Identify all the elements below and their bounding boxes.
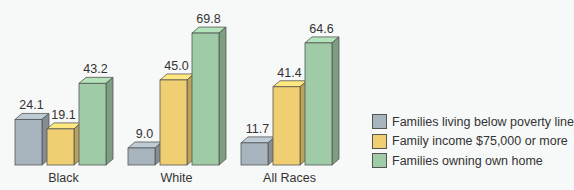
bar-side: [219, 27, 226, 165]
bar: [15, 119, 42, 165]
legend-swatch-yellow: [372, 134, 387, 149]
bar-side: [106, 77, 113, 165]
category-label: Black: [48, 171, 79, 185]
bar-value-label: 19.1: [51, 108, 75, 122]
bar: [128, 148, 155, 165]
legend-label: Families owning own home: [392, 154, 543, 168]
legend-swatch-green: [372, 153, 387, 168]
legend-swatch-gray: [372, 114, 387, 129]
bar: [192, 33, 219, 165]
bar-value-label: 11.7: [246, 122, 269, 136]
bar-value-label: 41.4: [277, 66, 301, 80]
bar: [160, 80, 187, 165]
bar-value-label: 64.6: [309, 22, 333, 36]
legend-item-poverty: Families living below poverty line: [372, 112, 574, 132]
bar: [47, 129, 74, 165]
bar: [305, 43, 332, 165]
bar: [241, 143, 268, 165]
bar-value-label: 43.2: [83, 62, 107, 76]
bar-chart: 24.119.143.2Black9.045.069.8White11.741.…: [0, 0, 340, 190]
chart-legend: Families living below poverty line Famil…: [372, 112, 574, 171]
bar-side: [332, 37, 339, 165]
legend-label: Families living below poverty line: [392, 115, 574, 129]
bar-value-label: 24.1: [19, 98, 43, 112]
category-label: White: [161, 171, 193, 185]
bar: [273, 87, 300, 165]
bar-value-label: 45.0: [164, 59, 188, 73]
bar-value-label: 69.8: [196, 12, 220, 26]
legend-item-income: Family income $75,000 or more: [372, 132, 574, 152]
legend-item-home: Families owning own home: [372, 151, 574, 171]
category-label: All Races: [263, 171, 316, 185]
bar: [79, 83, 106, 165]
bar-value-label: 9.0: [136, 127, 153, 141]
legend-label: Family income $75,000 or more: [392, 134, 568, 148]
